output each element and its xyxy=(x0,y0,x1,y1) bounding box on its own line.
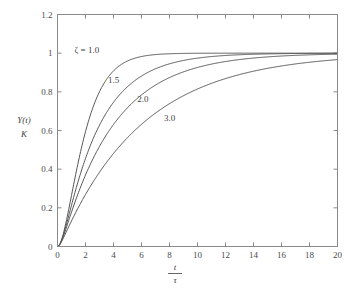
x-tick-label-8: 8 xyxy=(167,250,172,260)
x-tick-label-16: 16 xyxy=(277,250,287,260)
curve-label-2: 2.0 xyxy=(137,94,149,104)
y-tick-label-1.2: 1.2 xyxy=(41,10,52,20)
x-tick-label-14: 14 xyxy=(249,250,259,260)
y-tick-label-0.8: 0.8 xyxy=(41,87,53,97)
curve-label-1.5: 1.5 xyxy=(108,75,120,85)
x-tick-label-18: 18 xyxy=(305,250,315,260)
x-tick-label-2: 2 xyxy=(83,250,88,260)
curve-label-1: ζ = 1.0 xyxy=(75,45,100,55)
chart-figure: 02468101214161820 00.20.40.60.811.2 ζ = … xyxy=(0,0,351,291)
y-tick-label-0.2: 0.2 xyxy=(41,203,52,213)
chart-background xyxy=(0,0,351,291)
curve-label-3: 3.0 xyxy=(164,113,176,123)
y-tick-label-0.6: 0.6 xyxy=(41,126,53,136)
x-tick-label-12: 12 xyxy=(221,250,230,260)
x-tick-label-6: 6 xyxy=(139,250,144,260)
step-response-chart: 02468101214161820 00.20.40.60.811.2 ζ = … xyxy=(0,0,351,291)
y-tick-label-1: 1 xyxy=(48,48,53,58)
x-tick-label-0: 0 xyxy=(55,250,60,260)
x-tick-label-20: 20 xyxy=(333,250,343,260)
y-tick-label-0: 0 xyxy=(48,242,53,252)
svg-text:K: K xyxy=(20,129,28,139)
x-tick-label-4: 4 xyxy=(111,250,116,260)
y-tick-label-0.4: 0.4 xyxy=(41,164,53,174)
svg-text:Y(t): Y(t) xyxy=(17,115,31,125)
x-tick-label-10: 10 xyxy=(193,250,203,260)
